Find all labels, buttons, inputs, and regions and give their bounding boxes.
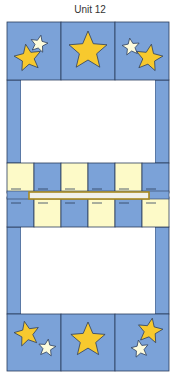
checker-square [34, 197, 61, 227]
left-border-strip-bottom [7, 227, 21, 314]
bottom-star-block [7, 314, 61, 371]
checker-square [142, 163, 169, 193]
left-border-strip-top [7, 80, 21, 163]
bottom-star-block [115, 314, 169, 371]
right-border-strip-top [155, 80, 169, 163]
checker-square [34, 163, 61, 193]
right-border-strip-bottom [155, 227, 169, 314]
checker-square [7, 163, 34, 193]
checker-square [142, 197, 169, 227]
checker-square [115, 163, 142, 193]
checker-square [61, 197, 88, 227]
top-star-block [115, 22, 169, 80]
white-panel-bottom [21, 227, 155, 314]
white-panel-top [21, 80, 155, 163]
checker-square [88, 163, 115, 193]
checker-square [115, 197, 142, 227]
checker-square [61, 163, 88, 193]
checker-square [88, 197, 115, 227]
quilt-diagram [0, 0, 180, 379]
checker-square [7, 197, 34, 227]
top-star-block [7, 22, 61, 80]
hanging-rod [29, 192, 149, 199]
